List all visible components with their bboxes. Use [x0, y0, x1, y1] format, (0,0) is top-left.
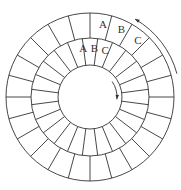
outer-label-c: C	[134, 34, 141, 46]
middle-label-c: C	[102, 44, 109, 56]
middle-sector-divider	[109, 122, 125, 143]
outer-sector-divider	[141, 127, 163, 140]
middle-label-a: A	[79, 42, 87, 54]
middle-sector-divider	[109, 50, 125, 71]
sector-ring-diagram: ABCABC	[0, 0, 181, 190]
outer-sector-divider	[68, 16, 74, 40]
outer-sector-divider	[48, 24, 61, 46]
middle-sector-divider	[67, 42, 77, 67]
middle-sector-divider	[43, 61, 64, 77]
middle-sector-divider	[82, 129, 86, 156]
middle-sector-divider	[120, 74, 145, 84]
middle-sector-divider	[54, 50, 70, 71]
outer-sector-divider	[132, 139, 150, 157]
counterclockwise-arrow-icon-head-icon	[135, 19, 140, 23]
inner-circle	[58, 65, 122, 129]
middle-sector-divider	[122, 101, 149, 105]
outer-sector-divider	[9, 112, 33, 118]
middle-label-b: B	[91, 42, 98, 54]
middle-sector-divider	[32, 89, 59, 93]
outer-sector-divider	[31, 38, 49, 56]
outer-sector-divider	[31, 139, 49, 157]
middle-sector-divider	[115, 61, 136, 77]
counterclockwise-arrow-icon	[135, 19, 177, 74]
middle-sector-divider	[115, 116, 136, 132]
sector-labels: ABCABC	[79, 18, 141, 56]
middle-sector-divider	[67, 127, 77, 152]
outer-sector-divider	[147, 112, 171, 118]
middle-sector-divider	[43, 116, 64, 132]
middle-sector-divider	[35, 74, 60, 84]
middle-sector-divider	[94, 129, 98, 156]
outer-sector-divider	[17, 55, 39, 68]
outer-sector-divider	[120, 148, 133, 170]
outer-sector-divider	[17, 127, 39, 140]
outer-label-b: B	[118, 23, 125, 35]
outer-sector-divider	[141, 55, 163, 68]
outer-label-a: A	[99, 18, 107, 30]
outer-sector-divider	[9, 75, 33, 81]
middle-circle	[31, 38, 149, 156]
outer-sector-divider	[48, 148, 61, 170]
outer-sector-divider	[105, 154, 111, 178]
middle-sector-divider	[32, 101, 59, 105]
middle-sector-divider	[122, 89, 149, 93]
middle-sector-divider	[54, 122, 70, 143]
middle-sector-divider	[102, 127, 112, 152]
outer-sector-divider	[147, 75, 171, 81]
middle-sector-divider	[35, 109, 60, 119]
middle-sector-divider	[120, 109, 145, 119]
outer-sector-divider	[68, 154, 74, 178]
